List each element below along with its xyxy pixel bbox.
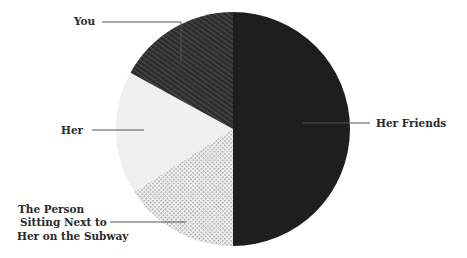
label-you: You <box>73 15 96 27</box>
pie-slice-her-friends <box>233 12 350 246</box>
pie-slices <box>116 12 350 246</box>
pie-chart: You Her Her Friends The Person Sitting N… <box>0 0 467 258</box>
label-subway-line3: Her on the Subway <box>17 230 129 242</box>
label-subway-line1: The Person <box>18 203 85 215</box>
label-her: Her <box>61 124 84 136</box>
label-her-friends: Her Friends <box>376 117 446 129</box>
label-subway-line2: Sitting Next to <box>20 216 107 228</box>
